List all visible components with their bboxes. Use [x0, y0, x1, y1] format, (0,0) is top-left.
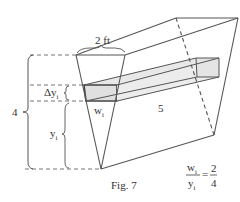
delta-y-label: Δyi — [44, 87, 59, 101]
equation-equals: = — [202, 169, 208, 180]
trough-diagram: 2 ft 4 Δyi yi wi 5 wi yi = 2 4 Fig. 7 — [0, 0, 240, 202]
height-label: 4 — [12, 107, 18, 118]
equation-rhs-denominator: 4 — [211, 178, 217, 189]
reference-lines — [25, 55, 101, 169]
delta-y-brace — [64, 86, 69, 100]
figure-caption: Fig. 7 — [111, 180, 137, 191]
w-label: wi — [94, 105, 104, 119]
height-brace — [23, 55, 33, 169]
y-brace — [62, 103, 69, 168]
equation-rhs-numerator: 2 — [211, 163, 217, 174]
top-width-label: 2 ft — [95, 35, 110, 46]
equation-lhs-denominator: yi — [188, 178, 195, 192]
equation-lhs-numerator: wi — [187, 162, 197, 176]
y-label: yi — [50, 128, 57, 142]
length-label: 5 — [158, 103, 164, 114]
slab-slice — [84, 58, 219, 101]
